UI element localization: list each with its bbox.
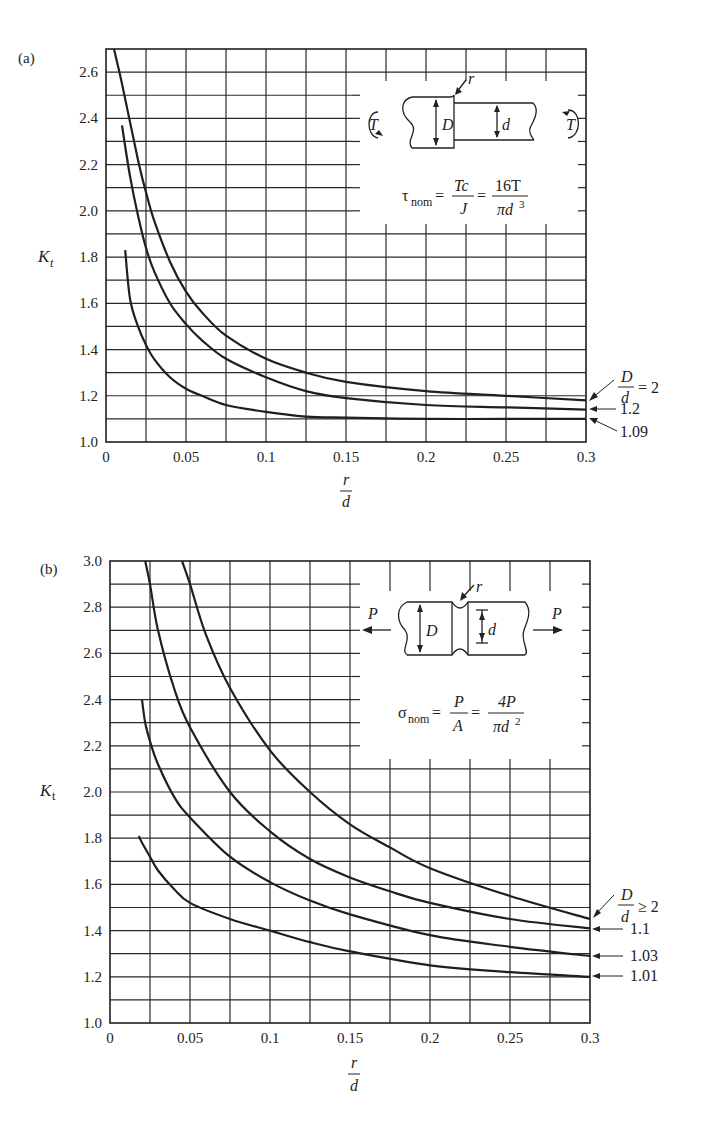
diameter-D-label: D	[441, 116, 454, 133]
y-tick-label: 2.8	[83, 599, 102, 615]
chart-b-tension: P D d r P σ nom = P A = 4P πd 2 1.01.21.…	[39, 553, 659, 1094]
diameter-d-label-b: d	[488, 621, 497, 638]
chart-a-y-ticks: 1.01.21.41.61.82.02.22.42.6	[79, 64, 98, 450]
x-tick-label: 0.1	[257, 449, 276, 465]
chart-b-x-ticks: 00.050.10.150.20.250.3	[106, 1030, 599, 1046]
curve-1-01	[139, 836, 590, 977]
y-tick-label: 1.8	[83, 830, 102, 846]
frac2-exp: 3	[519, 198, 525, 210]
x-tick-label: 0.15	[337, 1030, 363, 1046]
y-tick-label: 2.0	[83, 784, 102, 800]
y-tick-label: 1.2	[79, 388, 98, 404]
chart-a-x-ticks: 00.050.10.150.20.250.3	[102, 449, 595, 465]
chart-a-torsion: T D d r T τ nom = Tc J = 16T πd 3 1.01.2…	[18, 49, 659, 510]
panel-label-a: (a)	[18, 50, 35, 67]
x-tick-label: 0	[102, 449, 110, 465]
ann-b-label-1-03: 1.03	[630, 947, 658, 964]
frac2-exp-b: 2	[515, 715, 521, 727]
chart-b-annotations: D d ≥ 2 1.1 1.03 1.01	[592, 886, 659, 984]
equals-2: =	[477, 187, 486, 204]
x-tick-label: 0	[106, 1030, 114, 1046]
ann-a-label-1-2: 1.2	[620, 400, 640, 417]
ann-b-frac-den: d	[621, 908, 630, 925]
x-tick-label: 0.3	[581, 1030, 600, 1046]
load-P-left: P	[367, 605, 378, 622]
ann-a-label-2: = 2	[638, 379, 659, 396]
y-tick-label: 1.8	[79, 249, 98, 265]
equals-b2: =	[471, 704, 480, 721]
ann-b-label-1-1: 1.1	[630, 920, 650, 937]
y-tick-label: 2.0	[79, 203, 98, 219]
chart-a-inset: T D d r T τ nom = Tc J = 16T πd 3	[352, 70, 586, 232]
load-P-right: P	[551, 605, 562, 622]
frac2-num-b: 4P	[498, 693, 516, 710]
y-tick-label: 1.6	[83, 876, 102, 892]
ann-a-label-1-09: 1.09	[620, 423, 648, 440]
groove-radius-label: r	[476, 578, 483, 595]
torque-label-right: T	[566, 116, 576, 133]
panel-label-b: (b)	[40, 561, 58, 578]
y-tick-label: 2.2	[79, 157, 98, 173]
y-axis-label-a: K	[37, 247, 51, 266]
x-tick-label: 0.1	[261, 1030, 280, 1046]
x-axis-label-a: r d	[340, 471, 352, 510]
fillet-radius-label: r	[468, 70, 475, 87]
diameter-D-label-b: D	[425, 622, 438, 639]
y-tick-label: 1.6	[79, 295, 98, 311]
ann-b-frac-num: D	[620, 886, 633, 903]
chart-b-y-ticks: 1.01.21.41.61.82.02.22.42.62.83.0	[83, 553, 102, 1031]
y-tick-label: 2.2	[83, 738, 102, 754]
y-axis-label-a-sub: t	[50, 256, 54, 270]
sigma-symbol: σ	[398, 704, 407, 721]
x-tick-label: 0.2	[417, 449, 436, 465]
frac1-den: J	[460, 200, 468, 217]
diameter-d-label: d	[502, 116, 511, 133]
y-tick-label: 1.2	[83, 969, 102, 985]
nom-subscript: nom	[411, 195, 433, 209]
chart-b-inset: P D d r P σ nom = P A = 4P πd 2	[352, 578, 590, 767]
y-tick-label: 2.4	[79, 110, 98, 126]
x-label-num: r	[343, 471, 350, 488]
y-tick-label: 2.6	[83, 645, 102, 661]
x-axis-label-b: r d	[348, 1054, 360, 1094]
x-label-den-b: d	[350, 1077, 359, 1094]
frac1-num-b: P	[453, 693, 464, 710]
x-tick-label: 0.25	[493, 449, 519, 465]
x-tick-label: 0.05	[177, 1030, 203, 1046]
tau-symbol: τ	[402, 187, 409, 204]
x-label-den: d	[342, 493, 351, 510]
x-tick-label: 0.25	[497, 1030, 523, 1046]
y-axis-label-b: K	[39, 781, 53, 800]
figure-canvas: T D d r T τ nom = Tc J = 16T πd 3 1.01.2…	[0, 0, 702, 1135]
y-axis-label-b-sub: t	[52, 789, 56, 803]
y-tick-label: 1.4	[83, 923, 102, 939]
y-tick-label: 2.6	[79, 64, 98, 80]
frac2-num: 16T	[495, 177, 521, 194]
frac1-num: Tc	[454, 177, 469, 194]
x-label-num-b: r	[351, 1054, 358, 1071]
y-tick-label: 1.0	[83, 1015, 102, 1031]
x-tick-label: 0.05	[173, 449, 199, 465]
torque-label-left: T	[369, 116, 379, 133]
nom-subscript-b: nom	[408, 712, 430, 726]
equals-b1: =	[432, 704, 441, 721]
x-tick-label: 0.3	[577, 449, 596, 465]
chart-a-annotations: D d = 2 1.2 1.09	[589, 368, 659, 440]
x-tick-label: 0.15	[333, 449, 359, 465]
x-tick-label: 0.2	[421, 1030, 440, 1046]
frac1-den-b: A	[452, 717, 463, 734]
y-tick-label: 1.0	[79, 434, 98, 450]
ann-a-frac-num: D	[620, 368, 633, 385]
y-tick-label: 1.4	[79, 342, 98, 358]
ann-b-label-1-01: 1.01	[630, 967, 658, 984]
equals-1: =	[435, 187, 444, 204]
frac2-den-b: πd	[493, 718, 510, 735]
frac2-den: πd	[497, 201, 514, 218]
y-tick-label: 2.4	[83, 692, 102, 708]
ann-b-label-2: ≥ 2	[638, 898, 659, 915]
y-tick-label: 3.0	[83, 553, 102, 569]
